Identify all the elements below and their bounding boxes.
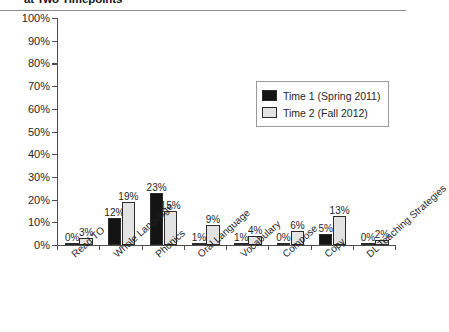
legend-item[interactable]: Time 2 (Fall 2012): [262, 104, 382, 121]
bar-value-label: 0%: [276, 233, 290, 243]
legend-item[interactable]: Time 1 (Spring 2011): [262, 87, 382, 104]
x-axis-tick: [184, 245, 185, 250]
chart-legend: Time 1 (Spring 2011)Time 2 (Fall 2012): [256, 81, 389, 127]
x-axis-tick: [311, 245, 312, 250]
x-axis-tick: [395, 245, 396, 250]
x-axis-tick: [268, 245, 269, 250]
page-title: at Two Timepoints: [24, 0, 122, 5]
bar-group: 0%3%: [57, 18, 99, 245]
bar-group: 12%19%: [99, 18, 141, 245]
y-axis-tick-label: 20%: [28, 194, 50, 205]
bars-layer: 0%3%12%19%23%15%1%9%1%4%0%6%5%13%0%2%: [57, 18, 395, 245]
bar-value-label: 1%: [234, 233, 248, 243]
bar-value-label: 19%: [118, 192, 138, 202]
bar-value-label: 0%: [361, 233, 375, 243]
legend-label: Time 2 (Fall 2012): [283, 107, 368, 119]
y-axis-tick-label: 40%: [28, 149, 50, 160]
x-axis-tick: [99, 245, 100, 250]
bar-group: 0%6%: [268, 18, 310, 245]
bar-group: 5%13%: [311, 18, 353, 245]
bar-value-label: 23%: [147, 183, 167, 193]
legend-label: Time 1 (Spring 2011): [283, 90, 380, 102]
bar-value-label: 9%: [206, 215, 220, 225]
x-axis-tick: [57, 245, 58, 250]
y-axis-tick-label: 10%: [28, 217, 50, 228]
x-axis-tick: [142, 245, 143, 250]
y-axis-tick-label: 100%: [22, 13, 50, 24]
y-axis-tick-label: 60%: [28, 103, 50, 114]
bar-time-1[interactable]: 12%: [108, 218, 122, 245]
legend-swatch-icon: [262, 90, 277, 101]
y-axis-tick-label: 80%: [28, 58, 50, 69]
bar-group: 0%2%: [353, 18, 395, 245]
x-axis-tick: [353, 245, 354, 250]
bar-value-label: 13%: [330, 206, 350, 216]
x-axis-tick: [226, 245, 227, 250]
y-axis-tick-label: 50%: [28, 126, 50, 137]
plot-area: 100%90%80%70%60%50%40%30%20%10%0% 0%3%12…: [57, 18, 395, 245]
bar-value-label: 0%: [65, 233, 79, 243]
legend-swatch-icon: [262, 107, 277, 118]
bar-value-label: 5%: [318, 224, 332, 234]
y-axis-tick-label: 0%: [34, 240, 50, 251]
y-axis-tick-label: 90%: [28, 35, 50, 46]
bar-value-label: 1%: [192, 233, 206, 243]
title-divider: [0, 10, 406, 11]
y-axis-tick-label: 30%: [28, 171, 50, 182]
bar-group: 1%9%: [184, 18, 226, 245]
y-axis-tick-label: 70%: [28, 81, 50, 92]
